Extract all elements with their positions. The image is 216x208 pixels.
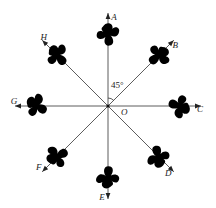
spinner-blob-c-icon xyxy=(167,94,191,119)
arrowhead-e-icon xyxy=(106,193,111,199)
ray-label-e: E xyxy=(98,192,105,202)
ray-label-a: A xyxy=(110,12,117,22)
arrowhead-a-icon xyxy=(106,13,111,19)
ray-label-g: G xyxy=(11,96,18,106)
spinner-blob-h-icon xyxy=(42,39,73,71)
ray-label-h: H xyxy=(40,32,48,42)
center-point xyxy=(106,104,109,107)
spinner-blob-f-icon xyxy=(41,140,73,172)
angle-label: 45° xyxy=(111,80,124,90)
center-label: O xyxy=(121,107,128,117)
compass-diagram: ABCDEFGH 45° O xyxy=(0,0,216,208)
ray-label-b: B xyxy=(172,40,178,50)
ray-label-c: C xyxy=(197,104,204,114)
spinner-blob-a-icon xyxy=(94,20,123,48)
ray-label-d: D xyxy=(164,168,172,178)
spinner-blob-e-icon xyxy=(94,165,120,190)
ray-label-f: F xyxy=(35,162,42,172)
spinner-blob-d-icon xyxy=(143,142,173,172)
angle-arc xyxy=(108,98,114,100)
spinner-blob-g-icon xyxy=(23,91,51,120)
spinner-blob-b-icon xyxy=(143,40,175,71)
